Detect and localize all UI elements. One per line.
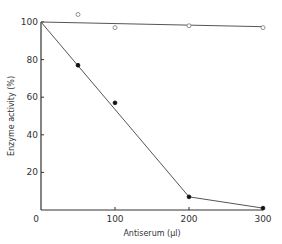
- filled-circle-marker: [261, 206, 265, 210]
- open-circle-marker: [113, 26, 117, 30]
- y-tick-label: 60: [27, 92, 39, 102]
- open-circle-marker: [261, 26, 265, 30]
- open-circle-marker: [76, 12, 80, 16]
- filled-circle-marker: [113, 101, 117, 105]
- x-tick-label: 100: [106, 214, 123, 224]
- series-line: [41, 22, 263, 27]
- x-tick-label: 0: [33, 214, 39, 224]
- series-line: [41, 22, 263, 208]
- y-tick-label: 80: [27, 55, 39, 65]
- y-axis-label: Enzyme activity (%): [7, 76, 16, 156]
- open-circle-marker: [187, 24, 191, 28]
- enzyme-activity-chart: 204060801000100200300 Antiserum (μl) Enz…: [0, 0, 282, 244]
- x-tick-label: 300: [254, 214, 271, 224]
- y-tick-label: 100: [21, 17, 38, 27]
- axes: [41, 22, 263, 210]
- y-tick-label: 40: [27, 130, 39, 140]
- series-lines: [41, 22, 263, 208]
- y-tick-label: 20: [27, 167, 39, 177]
- filled-circle-marker: [76, 63, 80, 67]
- data-points: [76, 12, 265, 210]
- x-axis-label: Antiserum (μl): [123, 229, 180, 238]
- axis-ticks: 204060801000100200300: [21, 17, 272, 224]
- filled-circle-marker: [187, 195, 191, 199]
- x-tick-label: 200: [180, 214, 197, 224]
